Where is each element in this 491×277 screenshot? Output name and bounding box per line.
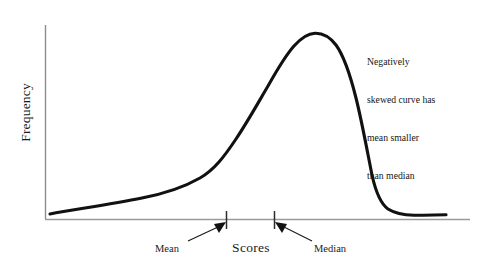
annotation-note: Negatively skewed curve has mean smaller… xyxy=(367,31,435,207)
x-axis-title: Scores xyxy=(210,240,292,257)
median-leader-line xyxy=(284,227,312,241)
mean-leader-line xyxy=(188,227,218,241)
y-axis-title: Frequency xyxy=(18,64,35,160)
annotation-line-2: skewed curve has xyxy=(367,94,435,107)
annotation-line-1: Negatively xyxy=(367,56,435,69)
skewed-distribution-figure: Frequency Scores Mean Median Negatively … xyxy=(0,0,491,277)
annotation-line-4: than median xyxy=(367,170,435,183)
mean-label: Mean xyxy=(155,242,179,255)
median-label: Median xyxy=(314,242,346,255)
annotation-line-3: mean smaller xyxy=(367,132,435,145)
